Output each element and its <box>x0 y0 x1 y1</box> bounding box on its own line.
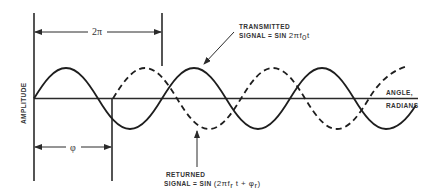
returned-expr-a: (2πf <box>214 179 231 188</box>
period-label: 2π <box>92 26 102 37</box>
transmitted-suffix: t <box>307 31 310 40</box>
returned-expr-b: t + φ <box>233 179 254 188</box>
x-axis-label-line2: RADIANS <box>386 102 419 109</box>
returned-signal-wave <box>113 66 408 129</box>
transmitted-prefix: SIGNAL = SIN <box>239 32 289 39</box>
returned-label-line1: RETURNED <box>166 171 205 178</box>
y-axis-label: AMPLITUDE <box>20 82 27 124</box>
x-axis-label-line1: ANGLE, <box>386 89 413 97</box>
transmitted-label-line2: SIGNAL = SIN 2πf0t <box>239 31 310 42</box>
transmitted-expr: 2πf <box>289 31 303 40</box>
phase-diagram: AMPLITUDE 2π φ TRANSMITTED SIGNAL = SIN … <box>0 0 440 194</box>
transmitted-leader-arrow <box>204 32 234 64</box>
returned-prefix: SIGNAL = SIN <box>164 180 214 187</box>
phase-label: φ <box>70 142 76 153</box>
returned-close: ) <box>257 179 260 188</box>
transmitted-label-line1: TRANSMITTED <box>239 23 290 30</box>
returned-label-line2: SIGNAL = SIN (2πfr t + φr) <box>164 179 261 190</box>
